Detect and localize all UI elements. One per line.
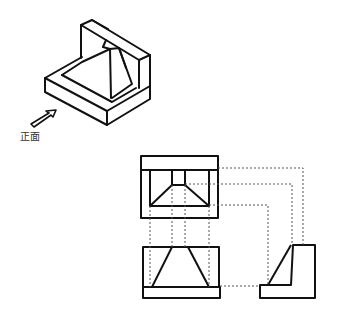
front-direction-arrow <box>31 110 56 127</box>
front-view <box>143 247 220 298</box>
orthographic-drawing <box>0 0 350 318</box>
top-view <box>141 156 218 218</box>
front-label: 正面 <box>20 128 40 143</box>
isometric-object <box>45 20 150 125</box>
